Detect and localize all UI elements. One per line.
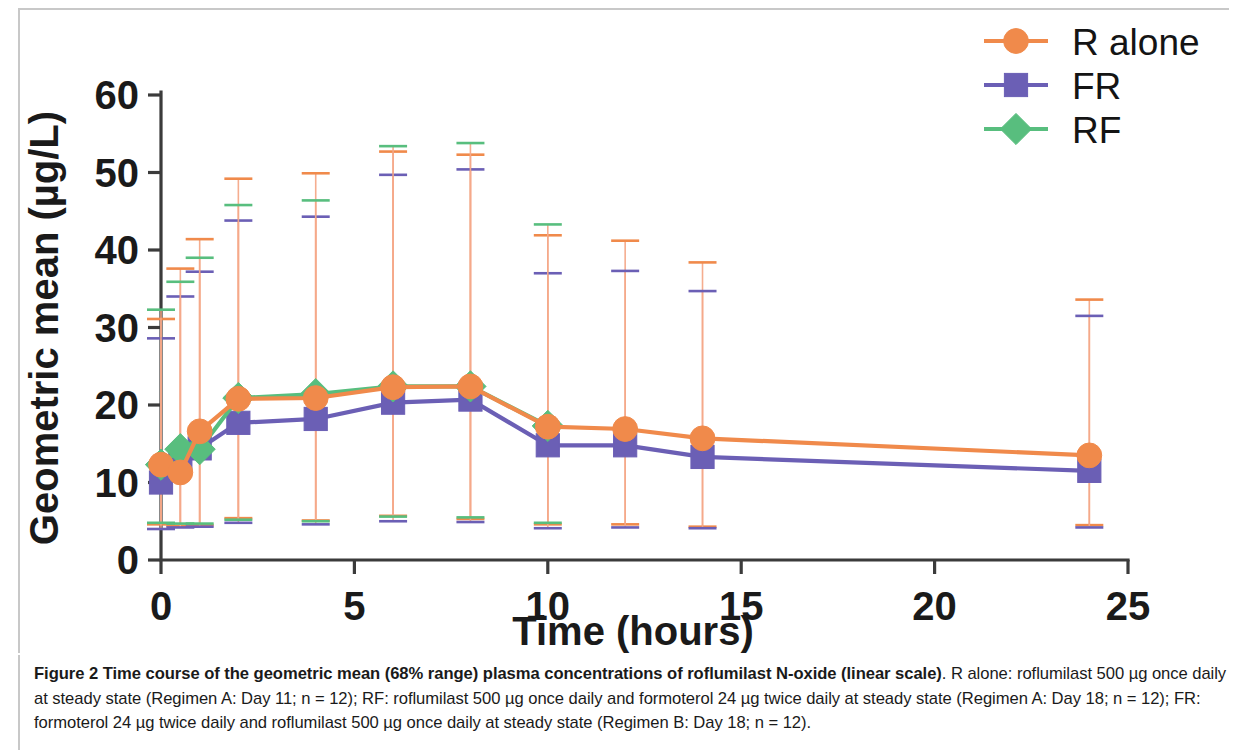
- error-bar: [456, 143, 484, 517]
- y-tick-label: 10: [95, 461, 140, 505]
- legend-item-rf: RF: [984, 110, 1121, 151]
- error-bars: [147, 143, 1103, 529]
- x-axis-title: Time (hours): [512, 609, 754, 653]
- chart-area: 01020304050600510152025 Time (hours) Geo…: [0, 0, 1247, 660]
- y-tick-label: 30: [95, 306, 140, 350]
- data-point: [168, 460, 193, 485]
- legend-marker-square: [1004, 73, 1027, 96]
- error-bar: [302, 200, 330, 521]
- legend-marker-diamond: [1000, 113, 1031, 144]
- figure-caption-title: Figure 2 Time course of the geometric me…: [34, 664, 942, 683]
- error-bar: [534, 224, 562, 522]
- line-chart: 01020304050600510152025 Time (hours) Geo…: [0, 0, 1247, 660]
- y-axis-title: Geometric mean (µg/L): [22, 111, 66, 545]
- legend-label: R alone: [1072, 22, 1200, 63]
- x-tick-label: 20: [912, 584, 957, 628]
- data-point: [381, 375, 406, 400]
- data-point: [227, 411, 250, 434]
- y-tick-label: 50: [95, 151, 140, 195]
- legend-item-r-alone: R alone: [984, 22, 1200, 63]
- axis-tick-labels: 01020304050600510152025: [95, 73, 1151, 628]
- y-tick-label: 0: [117, 538, 139, 582]
- x-tick-label: 0: [150, 584, 172, 628]
- figure-page: 01020304050600510152025 Time (hours) Geo…: [0, 0, 1247, 756]
- chart-legend: R aloneFRRF: [984, 22, 1200, 151]
- y-tick-label: 20: [95, 383, 140, 427]
- figure-caption: Figure 2 Time course of the geometric me…: [34, 662, 1230, 736]
- y-tick-label: 60: [95, 73, 140, 117]
- data-point: [535, 414, 560, 439]
- data-series: [145, 371, 1101, 494]
- error-bar: [379, 146, 407, 516]
- legend-item-fr: FR: [984, 66, 1121, 107]
- data-point: [1077, 443, 1102, 468]
- x-tick-label: 25: [1106, 584, 1151, 628]
- axes: [161, 92, 1128, 560]
- axis-ticks: [148, 95, 1128, 574]
- data-point: [458, 374, 483, 399]
- x-tick-label: 5: [343, 584, 365, 628]
- error-bar: [611, 271, 639, 528]
- data-point: [303, 386, 328, 411]
- data-point: [690, 426, 715, 451]
- data-point: [613, 417, 638, 442]
- legend-label: FR: [1072, 66, 1121, 107]
- data-point: [226, 386, 251, 411]
- error-bar: [1075, 316, 1103, 528]
- legend-marker-circle: [1004, 29, 1029, 54]
- error-bar: [689, 291, 717, 528]
- legend-label: RF: [1072, 110, 1121, 151]
- error-bar: [224, 205, 252, 520]
- data-point: [187, 419, 212, 444]
- y-tick-label: 40: [95, 228, 140, 272]
